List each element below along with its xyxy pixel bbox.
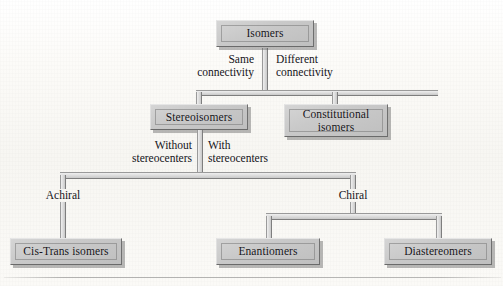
edge-label-chiral: Chiral bbox=[324, 189, 382, 202]
edge-label-without-stereocenters-line1: Without bbox=[100, 139, 192, 152]
edge-label-different-connectivity: Different connectivity bbox=[276, 53, 368, 79]
edge-label-same-connectivity: Same connectivity bbox=[168, 53, 254, 79]
node-isomers-label: Isomers bbox=[221, 25, 309, 42]
node-diastereomers[interactable]: Diastereomers bbox=[384, 238, 492, 265]
node-enantiomers-label: Enantiomers bbox=[221, 243, 315, 260]
node-constitutional-isomers-line1: Constitutional bbox=[303, 108, 370, 121]
node-constitutional-isomers-label: Constitutional isomers bbox=[289, 109, 383, 132]
edge-label-without-stereocenters: Without stereocenters bbox=[100, 139, 192, 165]
edge-label-with-stereocenters: With stereocenters bbox=[208, 139, 302, 165]
node-enantiomers[interactable]: Enantiomers bbox=[216, 238, 320, 265]
edge-label-chiral-text: Chiral bbox=[324, 189, 382, 202]
connector-to-enantiomers bbox=[266, 216, 272, 240]
edge-label-same-connectivity-line1: Same bbox=[168, 53, 254, 66]
connector-to-chiral bbox=[350, 175, 356, 189]
edge-label-same-connectivity-line2: connectivity bbox=[168, 66, 254, 79]
edge-label-achiral-text: Achiral bbox=[34, 189, 92, 202]
connector-stereoisomers-stem bbox=[197, 130, 203, 174]
connector-to-diastereomers bbox=[436, 216, 442, 240]
node-constitutional-isomers[interactable]: Constitutional isomers bbox=[284, 104, 388, 137]
page-bottom-rule bbox=[4, 277, 501, 278]
connector-level2-bus bbox=[60, 172, 356, 179]
node-cis-trans-isomers[interactable]: Cis-Trans isomers bbox=[10, 238, 122, 265]
node-stereoisomers[interactable]: Stereoisomers bbox=[150, 104, 248, 130]
isomers-flowchart: Isomers Same connectivity Different conn… bbox=[0, 0, 503, 286]
node-diastereomers-label: Diastereomers bbox=[389, 243, 487, 260]
edge-label-with-stereocenters-line1: With bbox=[208, 139, 302, 152]
node-stereoisomers-label: Stereoisomers bbox=[155, 109, 243, 125]
connector-level1-bus bbox=[196, 90, 438, 96]
connector-to-achiral bbox=[60, 175, 66, 189]
connector-isomers-stem bbox=[262, 48, 268, 92]
connector-achiral-stem bbox=[60, 202, 66, 240]
node-isomers[interactable]: Isomers bbox=[216, 20, 314, 47]
connector-chiral-bus bbox=[266, 213, 442, 220]
node-constitutional-isomers-line2: isomers bbox=[303, 121, 370, 134]
edge-label-without-stereocenters-line2: stereocenters bbox=[100, 152, 192, 165]
edge-label-with-stereocenters-line2: stereocenters bbox=[208, 152, 302, 165]
edge-label-different-connectivity-line1: Different bbox=[276, 53, 368, 66]
node-cis-trans-isomers-label: Cis-Trans isomers bbox=[15, 243, 117, 260]
edge-label-achiral: Achiral bbox=[34, 189, 92, 202]
edge-label-different-connectivity-line2: connectivity bbox=[276, 66, 368, 79]
